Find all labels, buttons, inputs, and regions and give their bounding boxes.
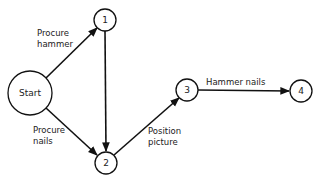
label-procure-hammer: Procure hammer (37, 28, 73, 49)
svg-text:hammer: hammer (37, 39, 73, 49)
node-2-label: 2 (103, 158, 109, 168)
edge-1-to-2 (105, 31, 106, 151)
node-start-label: Start (19, 88, 41, 98)
node-1-label: 1 (102, 15, 108, 25)
svg-text:Procure: Procure (33, 125, 65, 135)
node-3-label: 3 (184, 85, 190, 95)
svg-text:Hammer nails: Hammer nails (206, 77, 266, 87)
label-procure-nails: Procure nails (33, 125, 65, 146)
svg-text:Procure: Procure (37, 28, 69, 38)
svg-text:Position: Position (148, 126, 181, 136)
node-1: 1 (94, 9, 116, 31)
label-position-picture: Position picture (148, 126, 181, 147)
svg-text:picture: picture (148, 137, 178, 147)
edge-3-to-4 (198, 90, 289, 91)
diagram-svg: Start 1 2 3 4 Procure hammer Procure nai… (0, 0, 323, 185)
node-2: 2 (95, 152, 117, 174)
label-hammer-nails: Hammer nails (206, 77, 266, 87)
node-4-label: 4 (298, 86, 304, 96)
node-4: 4 (290, 80, 312, 102)
network-diagram: Start 1 2 3 4 Procure hammer Procure nai… (0, 0, 323, 185)
svg-text:nails: nails (33, 136, 53, 146)
node-3: 3 (176, 79, 198, 101)
node-start: Start (8, 71, 52, 115)
